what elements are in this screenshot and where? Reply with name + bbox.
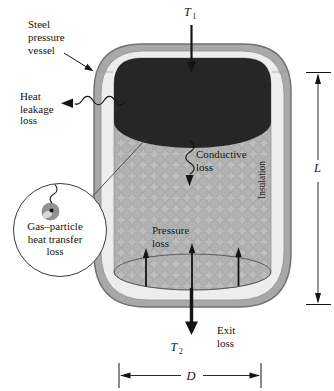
steel-vessel-label-line1: Steel — [28, 18, 50, 30]
pressure-loss-label-line2: loss — [152, 237, 169, 249]
conductive-loss-label-line1: Conductive — [196, 148, 247, 160]
gas-particle-label-line2: heat transfer — [28, 233, 83, 245]
exit-loss-label: Exit loss — [217, 324, 235, 349]
conductive-loss-label-line2: loss — [196, 161, 213, 173]
inlet-temp-subscript: 1 — [193, 12, 197, 21]
steel-label-pointer — [64, 53, 89, 69]
steel-vessel-label-line3: vessel — [28, 44, 55, 56]
steel-vessel-label-line2: pressure — [28, 31, 65, 43]
heat-leakage-label-line3: loss — [20, 114, 37, 126]
heat-leakage-label-line1: Heat — [20, 90, 41, 102]
vessel-diagram-canvas: Steel pressure vessel Heat leakage loss … — [0, 0, 334, 391]
hot-gas-region — [114, 58, 271, 148]
gas-particle-label-line3: loss — [46, 245, 63, 257]
gas-particle-label-line1: Gas–particle — [27, 220, 83, 232]
heat-leakage-label-line2: leakage — [20, 103, 54, 115]
exit-loss-label-line2: loss — [217, 337, 234, 349]
outlet-temp-symbol: T — [171, 340, 179, 354]
pressure-loss-label-line1: Pressure — [152, 224, 189, 236]
heat-leakage-arrowhead — [61, 99, 73, 108]
particle-core-dot — [49, 208, 53, 212]
diameter-dimension-label: D — [185, 369, 195, 383]
pressure-vessel-figure: Steel pressure vessel Heat leakage loss … — [0, 0, 334, 391]
inlet-temp-label: T 1 — [184, 5, 197, 21]
heat-leakage-label: Heat leakage loss — [20, 90, 54, 126]
outlet-temp-label: T 2 — [171, 340, 184, 356]
length-dimension-label: L — [313, 161, 321, 175]
inlet-temp-symbol: T — [184, 5, 192, 19]
steel-vessel-label: Steel pressure vessel — [28, 18, 65, 56]
outlet-temp-subscript: 2 — [179, 347, 183, 356]
exit-loss-label-line1: Exit — [217, 324, 235, 336]
insulation-label: Insulation — [257, 161, 267, 199]
length-dimension — [306, 73, 331, 305]
exit-flow-arrowhead — [185, 322, 198, 336]
steel-label-arrowhead — [84, 64, 95, 74]
